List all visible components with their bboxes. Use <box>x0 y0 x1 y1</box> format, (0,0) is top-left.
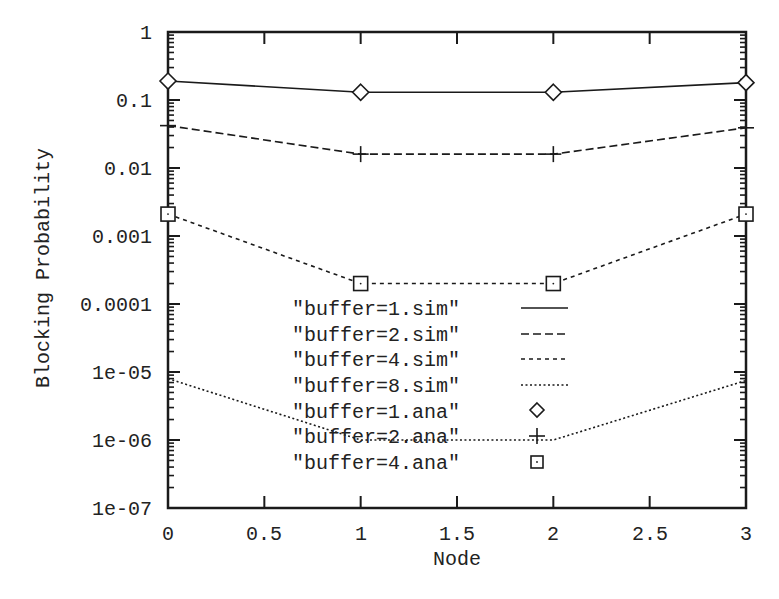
legend-label-buffer2-sim: "buffer=2.sim" <box>292 324 460 347</box>
x-tick-label: 0.5 <box>246 523 282 546</box>
square-marker-icon <box>739 207 753 221</box>
x-tick-label: 1 <box>355 523 367 546</box>
blocking-probability-chart: 1 0.1 0.01 0.001 0.0001 1e-05 1e-06 1e-0… <box>0 0 779 599</box>
y-tick-label: 1 <box>140 22 152 45</box>
series-line-2 <box>168 214 746 283</box>
legend-square-icon <box>531 456 543 468</box>
legend-label-buffer4-ana: "buffer=4.ana" <box>292 452 460 475</box>
y-tick-label: 0.0001 <box>80 294 152 317</box>
series-line-0 <box>168 81 746 92</box>
diamond-marker-icon <box>738 75 754 91</box>
x-tick-label: 0 <box>162 523 174 546</box>
y-tick-label: 1e-05 <box>92 362 152 385</box>
legend-label-buffer1-sim: "buffer=1.sim" <box>292 298 460 321</box>
diamond-marker-icon <box>160 73 176 89</box>
plus-marker-icon <box>738 120 754 136</box>
y-tick-label: 1e-06 <box>92 430 152 453</box>
series-line-1 <box>168 126 746 155</box>
legend-diamond-icon <box>530 403 544 417</box>
series-markers <box>160 73 754 290</box>
legend: "buffer=1.sim" "buffer=2.sim" "buffer=4.… <box>290 292 580 475</box>
y-tick-label: 0.01 <box>104 158 152 181</box>
legend-label-buffer8-sim: "buffer=8.sim" <box>292 375 460 398</box>
legend-label-buffer2-ana: "buffer=2.ana" <box>292 426 460 449</box>
plus-marker-icon <box>353 146 369 162</box>
square-marker-icon <box>546 277 560 291</box>
x-tick-label: 1.5 <box>439 523 475 546</box>
x-tick-label: 2.5 <box>632 523 668 546</box>
x-axis-label: Node <box>433 548 481 571</box>
y-tick-label: 1e-07 <box>92 498 152 521</box>
legend-label-buffer4-sim: "buffer=4.sim" <box>292 349 460 372</box>
diamond-marker-icon <box>353 84 369 100</box>
x-tick-label: 2 <box>547 523 559 546</box>
y-tick-label: 0.1 <box>116 90 152 113</box>
x-tick-label: 3 <box>740 523 752 546</box>
legend-plus-icon <box>529 428 545 444</box>
y-tick-labels: 1 0.1 0.01 0.001 0.0001 1e-05 1e-06 1e-0… <box>80 22 152 521</box>
y-tick-label: 0.001 <box>92 226 152 249</box>
plus-marker-icon <box>545 146 561 162</box>
diamond-marker-icon <box>545 84 561 100</box>
x-tick-labels: 0 0.5 1 1.5 2 2.5 3 <box>162 523 752 546</box>
square-marker-icon <box>161 207 175 221</box>
square-marker-icon <box>354 277 368 291</box>
legend-label-buffer1-ana: "buffer=1.ana" <box>292 401 460 424</box>
y-axis-label: Blocking Probability <box>32 148 55 388</box>
